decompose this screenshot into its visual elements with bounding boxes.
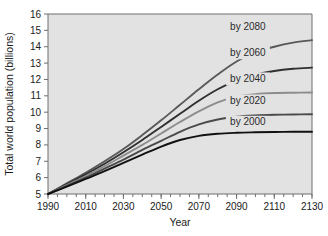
y-tick-label: 6 — [35, 172, 41, 183]
y-tick-label: 14 — [30, 41, 42, 52]
y-tick-label: 7 — [35, 156, 41, 167]
y-axis-title: Total world population (billions) — [3, 32, 15, 176]
x-tick-label: 2010 — [75, 201, 98, 212]
population-projection-chart: 5678910111213141516 19902010203020502070… — [0, 0, 328, 236]
series-label-by-2040: by 2040 — [230, 73, 266, 84]
y-tick-label: 9 — [35, 123, 41, 134]
y-tick-label: 11 — [31, 90, 42, 101]
series-label-by-2020: by 2020 — [230, 95, 266, 106]
x-tick-label: 1990 — [37, 201, 60, 212]
x-tick-label: 2050 — [150, 201, 173, 212]
x-tick-label: 2090 — [225, 201, 248, 212]
series-label-by-2080: by 2080 — [230, 21, 266, 32]
y-tick-label: 12 — [30, 74, 42, 85]
x-tick-label: 2130 — [301, 201, 324, 212]
x-tick-label: 2030 — [112, 201, 135, 212]
y-tick-label: 16 — [30, 9, 42, 20]
chart-figure: 5678910111213141516 19902010203020502070… — [0, 0, 328, 236]
y-tick-label: 8 — [35, 139, 41, 150]
x-tick-label: 2070 — [188, 201, 211, 212]
y-tick-label: 10 — [30, 107, 42, 118]
y-tick-label: 5 — [35, 189, 41, 200]
x-axis-title: Year — [169, 216, 191, 228]
x-tick-label: 2110 — [264, 201, 286, 212]
series-label-by-2000: by 2000 — [230, 116, 266, 127]
series-label-by-2060: by 2060 — [230, 47, 266, 58]
y-tick-label: 15 — [30, 25, 42, 36]
y-tick-label: 13 — [30, 58, 42, 69]
